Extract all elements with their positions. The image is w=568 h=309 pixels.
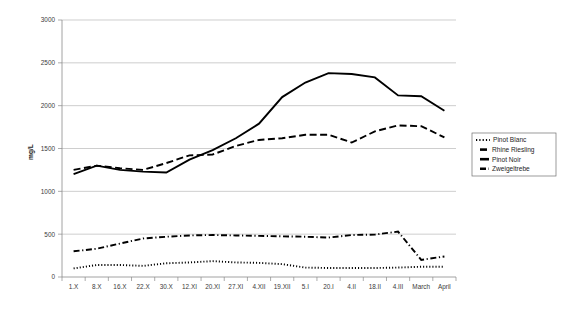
y-tick-label: 2500	[41, 59, 56, 66]
chart-legend: Pinot BlancRhine RieslingPinot NoirZweig…	[472, 133, 556, 176]
y-axis-title: mg/L	[27, 144, 35, 160]
x-tick-label: 30.X	[160, 283, 174, 290]
y-tick-label: 1500	[41, 145, 56, 152]
series-line-rhine-riesling	[74, 125, 445, 170]
y-tick-label: 1000	[41, 188, 56, 195]
y-tick-label: 500	[44, 231, 55, 238]
y-tick-label: 2000	[41, 102, 56, 109]
gridlines	[62, 20, 456, 234]
x-axis-ticks: 1.X8.X16.X22.X30.X12.XI20.XI27.XI4.XII19…	[62, 277, 456, 291]
data-series-group	[74, 73, 445, 268]
y-tick-label: 3000	[41, 16, 56, 23]
x-tick-label: 12.XI	[182, 283, 197, 290]
x-tick-label: 20.XI	[205, 283, 220, 290]
y-tick-label: 0	[51, 273, 55, 280]
x-tick-label: 5.I	[302, 283, 309, 290]
series-line-pinot-noir	[74, 73, 445, 174]
series-line-pinot-blanc	[74, 261, 445, 268]
legend-label: Zweigeltrebe	[492, 165, 530, 173]
legend-label: Rhine Riesling	[492, 146, 535, 154]
x-tick-label: 4.II	[347, 283, 356, 290]
x-tick-label: 22.X	[137, 283, 151, 290]
legend-label: Pinot Noir	[492, 156, 522, 163]
x-tick-label: 8.X	[92, 283, 102, 290]
y-axis-ticks: 050010001500200025003000	[41, 16, 62, 280]
series-line-zweigeltrebe	[74, 232, 445, 260]
x-tick-label: 20.I	[323, 283, 334, 290]
x-tick-label: 18.II	[369, 283, 382, 290]
x-tick-label: 27.XI	[228, 283, 243, 290]
x-tick-label: March	[412, 283, 430, 290]
chart-canvas: 050010001500200025003000 1.X8.X16.X22.X3…	[0, 0, 568, 309]
x-tick-label: 1.X	[69, 283, 79, 290]
x-tick-label: April	[438, 283, 451, 291]
x-tick-label: 4.III	[393, 283, 404, 290]
x-tick-label: 16.X	[113, 283, 127, 290]
x-tick-label: 19.XII	[274, 283, 291, 290]
x-tick-label: 4.XII	[252, 283, 265, 290]
line-chart: 050010001500200025003000 1.X8.X16.X22.X3…	[0, 0, 568, 309]
legend-label: Pinot Blanc	[493, 136, 527, 143]
